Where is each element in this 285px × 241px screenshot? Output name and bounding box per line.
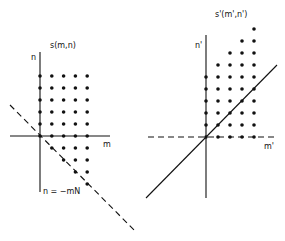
left-n-label: n xyxy=(31,53,36,62)
lattice-point xyxy=(240,123,244,127)
left-m-label: m xyxy=(103,140,111,149)
lattice-point xyxy=(252,99,256,103)
left-title: s(m,n) xyxy=(50,41,76,50)
lattice-point xyxy=(228,123,232,127)
lattice-point xyxy=(216,135,220,139)
lattice-point xyxy=(74,74,78,78)
lattice-point xyxy=(74,86,78,90)
lattice-point xyxy=(62,86,66,90)
lattice-point xyxy=(62,74,66,78)
lattice-point xyxy=(252,75,256,79)
lattice-point xyxy=(204,123,208,127)
right-title: s'(m',n') xyxy=(215,10,247,19)
lattice-point xyxy=(228,75,232,79)
lattice-point xyxy=(240,99,244,103)
lattice-point xyxy=(50,146,54,150)
lattice-point xyxy=(252,123,256,127)
lattice-point xyxy=(204,135,208,139)
lattice-point xyxy=(50,110,54,114)
lattice-point xyxy=(62,110,66,114)
lattice-point xyxy=(228,51,232,55)
lattice-point xyxy=(252,63,256,67)
left-dashed-boundary-line xyxy=(10,105,136,232)
left-support-points xyxy=(38,74,89,186)
lattice-point xyxy=(85,86,89,90)
lattice-point xyxy=(252,111,256,115)
lattice-point xyxy=(38,98,42,102)
lattice-point xyxy=(50,74,54,78)
lattice-point xyxy=(252,135,256,139)
lattice-point xyxy=(38,110,42,114)
lattice-point xyxy=(228,87,232,91)
lattice-point xyxy=(85,134,89,138)
lattice-point xyxy=(228,63,232,67)
lattice-point xyxy=(252,51,256,55)
lattice-point xyxy=(50,98,54,102)
lattice-point xyxy=(85,74,89,78)
lattice-point xyxy=(85,110,89,114)
lattice-point xyxy=(216,87,220,91)
right-diagram: s'(m',n') n' m' xyxy=(146,10,277,198)
right-n-prime-label: n' xyxy=(195,41,202,50)
lattice-point xyxy=(216,99,220,103)
lattice-point xyxy=(216,75,220,79)
lattice-point xyxy=(50,122,54,126)
lattice-point xyxy=(240,63,244,67)
lattice-point xyxy=(85,170,89,174)
diagram-canvas: s(m,n) n m n = −mN s'(m',n') n' m' xyxy=(0,0,285,241)
lattice-point xyxy=(204,99,208,103)
lattice-point xyxy=(228,111,232,115)
lattice-point xyxy=(85,98,89,102)
lattice-point xyxy=(85,122,89,126)
lattice-point xyxy=(62,122,66,126)
lattice-point xyxy=(62,146,66,150)
lattice-point xyxy=(240,39,244,43)
lattice-point xyxy=(85,182,89,186)
lattice-point xyxy=(62,158,66,162)
lattice-point xyxy=(216,111,220,115)
right-support-points xyxy=(204,27,256,139)
lattice-point xyxy=(74,110,78,114)
lattice-point xyxy=(38,74,42,78)
lattice-point xyxy=(252,87,256,91)
lattice-point xyxy=(74,146,78,150)
lattice-point xyxy=(50,134,54,138)
lattice-point xyxy=(252,27,256,31)
lattice-point xyxy=(204,111,208,115)
lattice-point xyxy=(216,63,220,67)
lattice-point xyxy=(85,158,89,162)
lattice-point xyxy=(74,158,78,162)
left-line-label: n = −mN xyxy=(43,187,80,196)
right-diagonal-line xyxy=(146,65,277,198)
lattice-point xyxy=(216,123,220,127)
lattice-point xyxy=(252,39,256,43)
lattice-point xyxy=(74,134,78,138)
lattice-point xyxy=(38,86,42,90)
lattice-point xyxy=(204,87,208,91)
lattice-point xyxy=(74,98,78,102)
right-m-prime-label: m' xyxy=(264,142,274,151)
lattice-point xyxy=(240,87,244,91)
left-diagram: s(m,n) n m n = −mN xyxy=(10,41,136,232)
lattice-point xyxy=(74,122,78,126)
lattice-point xyxy=(38,134,42,138)
lattice-point xyxy=(228,99,232,103)
lattice-point xyxy=(240,51,244,55)
lattice-point xyxy=(204,75,208,79)
lattice-point xyxy=(38,122,42,126)
lattice-point xyxy=(62,98,66,102)
lattice-point xyxy=(50,86,54,90)
lattice-point xyxy=(62,134,66,138)
lattice-point xyxy=(74,170,78,174)
lattice-point xyxy=(240,75,244,79)
lattice-point xyxy=(240,111,244,115)
lattice-point xyxy=(240,135,244,139)
lattice-point xyxy=(228,135,232,139)
lattice-point xyxy=(85,146,89,150)
